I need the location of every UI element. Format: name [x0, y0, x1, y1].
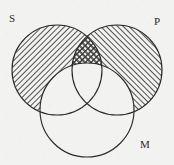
circle-label-p: P — [154, 16, 160, 27]
circle-label-s: S — [9, 13, 15, 24]
venn-diagram: S P M — [0, 0, 174, 165]
circle-label-m: M — [140, 139, 150, 150]
